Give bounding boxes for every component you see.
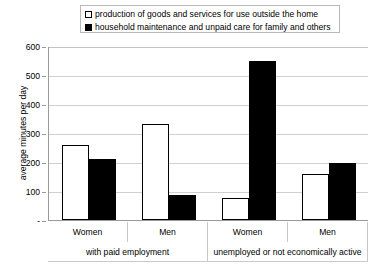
- y-axis-tick-label: -: [37, 217, 40, 225]
- legend-item-production: production of goods and services for use…: [85, 8, 336, 20]
- y-axis-tick-label: 600: [26, 43, 40, 51]
- bar-household: [169, 195, 196, 220]
- y-axis-tick-mark: [42, 47, 46, 48]
- y-axis-tick-mark: [42, 134, 46, 135]
- legend-label-household: household maintenance and unpaid care fo…: [95, 21, 331, 33]
- legend-swatch-hollow-icon: [85, 11, 92, 18]
- bar-production: [302, 174, 329, 220]
- y-axis-tick-label: 500: [26, 72, 40, 80]
- bar-production: [142, 124, 169, 220]
- bar-household: [329, 163, 356, 220]
- y-axis-tick-mark: [42, 105, 46, 106]
- y-axis-tick-label: 200: [26, 159, 40, 167]
- y-axis-tick-mark: [42, 192, 46, 193]
- bar-chart: production of goods and services for use…: [0, 0, 382, 269]
- chart-legend: production of goods and services for use…: [80, 5, 340, 33]
- y-axis-tick-label: 400: [26, 101, 40, 109]
- y-axis-ticks: 600500400300200100-: [0, 47, 46, 221]
- legend-swatch-filled-icon: [85, 24, 92, 31]
- x-axis-category-label: Women: [48, 222, 128, 242]
- y-axis-tick-mark: [42, 163, 46, 164]
- x-axis-group-label: unemployed or not economically active: [208, 242, 368, 262]
- bar-series-container: [49, 47, 368, 220]
- legend-label-production: production of goods and services for use…: [95, 8, 318, 20]
- bar-household: [89, 159, 116, 220]
- x-axis-category-label: Men: [288, 222, 368, 242]
- plot-area: [48, 47, 368, 221]
- x-axis-category-label: Women: [208, 222, 288, 242]
- x-axis-category-label: Men: [128, 222, 208, 242]
- x-axis-category-labels: WomenMenWomenMen: [48, 222, 368, 242]
- x-axis-group-label: with paid employment: [48, 242, 208, 262]
- y-axis-tick-mark: [42, 76, 46, 77]
- x-axis-group-labels: with paid employmentunemployed or not ec…: [48, 242, 368, 262]
- bar-household: [249, 61, 276, 221]
- bar-production: [62, 145, 89, 220]
- y-axis-tick-label: 300: [26, 130, 40, 138]
- y-axis-tick-label: 100: [26, 188, 40, 196]
- y-axis-tick-mark: [42, 221, 46, 222]
- legend-item-household: household maintenance and unpaid care fo…: [85, 21, 336, 33]
- bar-production: [222, 198, 249, 220]
